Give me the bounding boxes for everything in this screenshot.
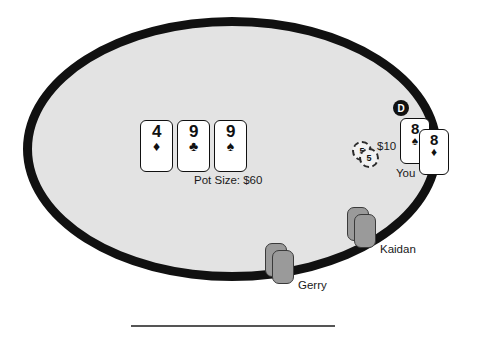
hero-card: 8♦ bbox=[419, 129, 449, 175]
poker-table-scene: 4♦9♣9♠ Pot Size: $60 D 55 $10 8♠8♦ You G… bbox=[0, 0, 478, 344]
community-card: 9♣ bbox=[177, 120, 210, 172]
facedown-card bbox=[272, 250, 294, 284]
poker-chip: 5 bbox=[359, 148, 379, 168]
spade-suit-icon: ♠ bbox=[227, 139, 234, 153]
diamond-suit-icon: ♦ bbox=[153, 139, 160, 153]
community-card: 9♠ bbox=[214, 120, 247, 172]
diamond-suit-icon: ♦ bbox=[431, 146, 437, 158]
facedown-card bbox=[354, 214, 376, 248]
seat-label-you: You bbox=[396, 167, 415, 179]
community-card: 4♦ bbox=[140, 120, 173, 172]
spade-suit-icon: ♠ bbox=[412, 135, 418, 147]
club-suit-icon: ♣ bbox=[189, 139, 198, 153]
hero-bet-label: $10 bbox=[377, 140, 396, 152]
pot-size-label: Pot Size: $60 bbox=[194, 174, 262, 186]
seat-label-gerry: Gerry bbox=[298, 279, 327, 291]
seat-label-kaidan: Kaidan bbox=[380, 243, 416, 255]
bottom-divider bbox=[131, 325, 335, 327]
dealer-button-icon: D bbox=[393, 100, 409, 116]
